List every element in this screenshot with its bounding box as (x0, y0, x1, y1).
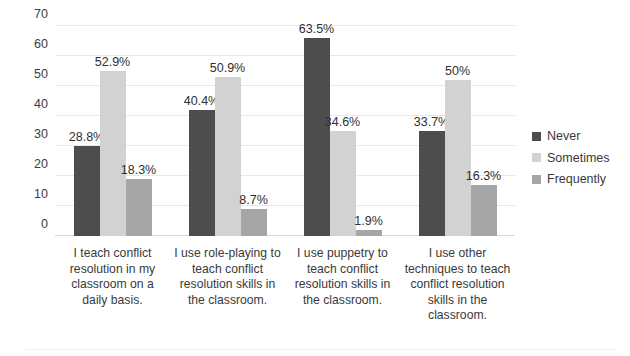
bar-group-bars: 63.5%34.6%1.9% (285, 26, 400, 236)
bar-value-label: 8.7% (239, 194, 268, 207)
bar-frequently[interactable] (241, 209, 267, 236)
bar-group: 28.8%52.9%18.3% (55, 26, 170, 236)
chart-bottom-rule (26, 349, 616, 350)
x-axis-category-label: I use other techniques to teach conflict… (400, 246, 515, 324)
bar-value-label: 50% (445, 65, 470, 78)
legend-swatch-icon (532, 153, 541, 162)
bar-group: 40.4%50.9%8.7% (170, 26, 285, 236)
legend-label: Sometimes (547, 152, 610, 165)
legend-swatch-icon (532, 132, 541, 141)
bar-slot: 50% (445, 26, 471, 236)
y-axis-tick-label: 70 (34, 7, 48, 20)
y-axis-tick-label: 30 (34, 127, 48, 140)
legend-label: Never (547, 130, 580, 143)
bar-value-label: 1.9% (354, 215, 383, 228)
bar-slot: 50.9% (215, 26, 241, 236)
y-axis-tick-label: 60 (34, 37, 48, 50)
x-axis-category-label: I teach conflict resolution in my classr… (55, 246, 170, 324)
bar-sometimes[interactable] (215, 77, 241, 236)
bar-slot: 33.7% (419, 26, 445, 236)
x-axis-category-label: I use role-playing to teach conflict res… (170, 246, 285, 324)
y-axis-tick-label: 10 (34, 187, 48, 200)
legend-swatch-icon (532, 175, 541, 184)
bar-slot: 40.4% (189, 26, 215, 236)
bar-slot: 34.6% (330, 26, 356, 236)
bar-never[interactable] (74, 146, 100, 236)
y-axis-tick-label: 0 (41, 217, 48, 230)
bar-never[interactable] (189, 110, 215, 236)
y-axis-tick-label: 40 (34, 97, 48, 110)
bar-sometimes[interactable] (445, 80, 471, 236)
y-axis-tick-label: 50 (34, 67, 48, 80)
bar-slot: 16.3% (471, 26, 497, 236)
bar-slot: 8.7% (241, 26, 267, 236)
plot-area: 010203040506070 28.8%52.9%18.3%40.4%50.9… (55, 26, 515, 236)
bar-sometimes[interactable] (330, 131, 356, 236)
bar-slot: 63.5% (304, 26, 330, 236)
bar-frequently[interactable] (356, 230, 382, 236)
bar-group-bars: 33.7%50%16.3% (400, 26, 515, 236)
bar-groups: 28.8%52.9%18.3%40.4%50.9%8.7%63.5%34.6%1… (55, 26, 515, 236)
bar-value-label: 18.3% (121, 164, 156, 177)
bar-frequently[interactable] (471, 185, 497, 236)
legend-item-sometimes[interactable]: Sometimes (532, 152, 610, 165)
bar-value-label: 16.3% (466, 170, 501, 183)
x-axis-category-labels: I teach conflict resolution in my classr… (55, 246, 515, 324)
bar-group-bars: 28.8%52.9%18.3% (55, 26, 170, 236)
bar-slot: 18.3% (126, 26, 152, 236)
bar-group: 33.7%50%16.3% (400, 26, 515, 236)
legend-item-frequently[interactable]: Frequently (532, 173, 610, 186)
x-axis-category-label: I use puppetry to teach conflict resolut… (285, 246, 400, 324)
legend-label: Frequently (547, 173, 606, 186)
bar-slot: 1.9% (356, 26, 382, 236)
bar-chart: 010203040506070 28.8%52.9%18.3%40.4%50.9… (0, 0, 630, 356)
y-axis-tick-label: 20 (34, 157, 48, 170)
bar-sometimes[interactable] (100, 71, 126, 236)
legend-item-never[interactable]: Never (532, 130, 610, 143)
bar-group: 63.5%34.6%1.9% (285, 26, 400, 236)
bar-frequently[interactable] (126, 179, 152, 236)
chart-legend: NeverSometimesFrequently (532, 130, 610, 186)
bar-never[interactable] (304, 38, 330, 236)
bar-group-bars: 40.4%50.9%8.7% (170, 26, 285, 236)
bar-never[interactable] (419, 131, 445, 236)
bar-slot: 52.9% (100, 26, 126, 236)
